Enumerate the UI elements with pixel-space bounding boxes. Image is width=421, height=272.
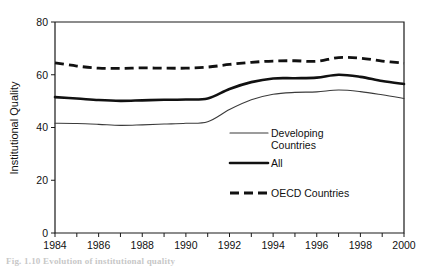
legend-label-oecd-countries: OECD Countries bbox=[271, 187, 349, 199]
x-tick-label: 1996 bbox=[305, 239, 329, 251]
x-axis-tick-labels: 198419861988199019921994199619982000 bbox=[43, 239, 416, 251]
x-tick-label: 2000 bbox=[392, 239, 416, 251]
figure-container: 020406080 198419861988199019921994199619… bbox=[0, 0, 421, 272]
series-developing-countries bbox=[55, 90, 404, 125]
y-tick-label: 0 bbox=[42, 227, 48, 239]
line-chart: 020406080 198419861988199019921994199619… bbox=[0, 0, 421, 272]
y-tick-label: 60 bbox=[36, 69, 48, 81]
x-tick-label: 1994 bbox=[261, 239, 285, 251]
plot-frame bbox=[55, 22, 404, 233]
series-all bbox=[55, 75, 404, 101]
x-tick-label: 1998 bbox=[349, 239, 373, 251]
legend-label-all: All bbox=[271, 157, 283, 169]
legend: Developing Countries All OECD Countries bbox=[230, 127, 349, 199]
y-tick-label: 20 bbox=[36, 174, 48, 186]
y-tick-label: 80 bbox=[36, 16, 48, 28]
x-tick-label: 1986 bbox=[87, 239, 111, 251]
series-oecd-countries bbox=[55, 57, 404, 68]
data-series bbox=[55, 57, 404, 125]
x-tick-label: 1992 bbox=[218, 239, 242, 251]
x-tick-label: 1988 bbox=[131, 239, 155, 251]
legend-label-developing-countries-line2: Countries bbox=[271, 139, 316, 151]
y-axis-tick-labels: 020406080 bbox=[36, 16, 48, 239]
x-tick-label: 1984 bbox=[43, 239, 67, 251]
y-axis-title: Institutional Quality bbox=[8, 81, 20, 174]
x-tick-label: 1990 bbox=[174, 239, 198, 251]
y-tick-label: 40 bbox=[36, 121, 48, 133]
legend-label-developing-countries-line1: Developing bbox=[271, 127, 324, 139]
figure-caption: Fig. 1.10 Evolution of institutional qua… bbox=[6, 256, 418, 266]
